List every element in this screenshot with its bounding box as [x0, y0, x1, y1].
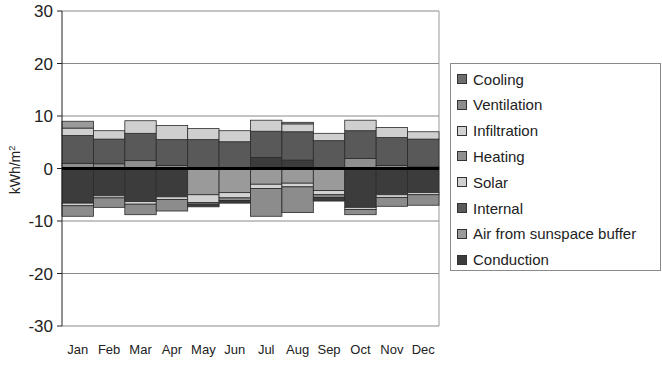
x-tick-label: Feb [98, 342, 120, 357]
y-tick-label: 0 [44, 160, 53, 179]
bar-segment [313, 169, 344, 191]
legend-swatch-icon [457, 126, 467, 136]
legend-swatch-icon [457, 255, 467, 265]
bar-segment [282, 132, 313, 160]
legend-item: Infiltration [457, 121, 538, 141]
bar-segment [345, 209, 376, 214]
bar-segment [188, 204, 219, 207]
bar-segment [345, 131, 376, 159]
bar-segment [219, 169, 250, 193]
legend-label: Ventilation [473, 96, 542, 113]
legend-label: Cooling [473, 71, 524, 88]
bar-segment [282, 122, 313, 124]
legend-swatch-icon [457, 203, 467, 213]
legend-item: Cooling [457, 69, 524, 89]
legend-label: Heating [473, 148, 525, 165]
y-tick-labels: 3020100-10-20-30 [28, 2, 53, 336]
bar-segment [251, 157, 282, 168]
bar-segment [93, 198, 124, 207]
y-tick-label: -20 [28, 265, 53, 284]
bar-segment [219, 131, 250, 142]
y-tick-label: 20 [34, 55, 53, 74]
bar-segment [125, 169, 156, 202]
legend-label: Internal [473, 200, 523, 217]
x-tick-label: Dec [412, 342, 436, 357]
bar-segment [219, 193, 250, 198]
y-tick-label: -10 [28, 212, 53, 231]
x-tick-label: Aug [286, 342, 309, 357]
bar-segment [251, 169, 282, 185]
x-tick-label: May [191, 342, 216, 357]
bar-segment [156, 140, 187, 166]
bar-stack-nov [376, 128, 407, 207]
x-tick-labels: JanFebMarAprMayJunJulAugSepOctNovDec [67, 342, 435, 357]
bar-segment [282, 169, 313, 184]
bar-segment [408, 195, 439, 206]
bar-segment [251, 188, 282, 216]
bar-segment [345, 120, 376, 131]
legend-item: Internal [457, 198, 523, 218]
bar-segment [188, 129, 219, 140]
y-axis-label: kWh/m2 [7, 146, 23, 195]
bar-stack-jun [219, 131, 250, 203]
legend-item: Ventilation [457, 95, 542, 115]
bar-segment [156, 125, 187, 139]
bar-segment [313, 191, 344, 195]
bar-segment [62, 135, 93, 163]
legend-item: Solar [457, 172, 508, 192]
legend-swatch-icon [457, 177, 467, 187]
bar-segment [156, 169, 187, 197]
bar-segment [62, 128, 93, 135]
bar-segment [251, 120, 282, 131]
legend-swatch-icon [457, 229, 467, 239]
x-tick-label: Sep [317, 342, 340, 357]
bar-segment [219, 201, 250, 204]
legend-item: Conduction [457, 250, 549, 270]
x-tick-label: Mar [129, 342, 152, 357]
legend-swatch-icon [457, 151, 467, 161]
x-tick-label: Nov [380, 342, 404, 357]
bar-segment [125, 133, 156, 160]
bar-segment [188, 140, 219, 168]
bar-segment [376, 138, 407, 166]
y-tick-label: 10 [34, 107, 53, 126]
bar-segment [376, 169, 407, 195]
bar-segment [376, 197, 407, 206]
bar-segment [125, 121, 156, 134]
bar-segment [219, 142, 250, 168]
legend-label: Conduction [473, 251, 549, 268]
bar-segment [188, 195, 219, 203]
x-tick-label: Jan [67, 342, 88, 357]
legend-item: Air from sunspace buffer [457, 224, 636, 244]
bar-segment [408, 169, 439, 193]
bar-segment [345, 169, 376, 208]
bar-segment [125, 204, 156, 215]
legend-item: Heating [457, 146, 525, 166]
bar-segment [93, 131, 124, 139]
bar-segment [156, 199, 187, 211]
bar-segment [282, 183, 313, 187]
bar-segment [251, 131, 282, 157]
legend-label: Solar [473, 174, 508, 191]
bar-segment [282, 124, 313, 132]
axes [57, 11, 439, 326]
legend-label: Infiltration [473, 122, 538, 139]
bar-segment [313, 141, 344, 168]
x-tick-label: Jul [258, 342, 275, 357]
bar-segment [93, 169, 124, 196]
bar-segment [62, 169, 93, 204]
bar-segment [93, 139, 124, 164]
legend-label: Air from sunspace buffer [473, 225, 636, 242]
legend-swatch-icon [457, 100, 467, 110]
legend-swatch-icon [457, 74, 467, 84]
bar-segment [62, 206, 93, 217]
bar-segment [251, 184, 282, 188]
bar-segment [282, 187, 313, 213]
bar-segment [313, 133, 344, 140]
bar-segment [408, 139, 439, 167]
bar-segment [376, 128, 407, 138]
chart-legend: CoolingVentilationInfiltrationHeatingSol… [450, 63, 661, 271]
bar-segment [188, 169, 219, 195]
x-tick-label: Apr [162, 342, 183, 357]
y-tick-label: 30 [34, 2, 53, 21]
